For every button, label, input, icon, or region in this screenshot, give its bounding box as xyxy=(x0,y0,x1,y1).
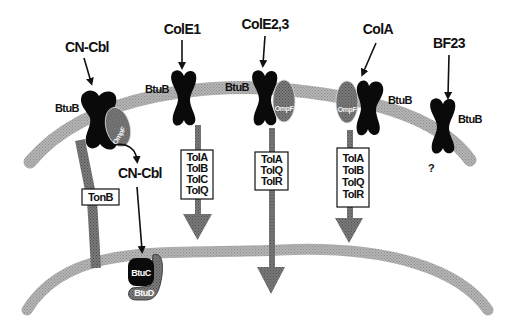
periplasm-ligand-label: CN-Cbl xyxy=(118,165,162,181)
btub-label: BtuB xyxy=(225,81,250,93)
ligand-label-cn-cbl: CN-Cbl xyxy=(65,39,109,55)
btub-label: BtuB xyxy=(458,113,483,125)
ompf-trimer xyxy=(336,81,358,123)
btub-label: BtuB xyxy=(55,102,80,114)
tol-box-cola: TolA TolB TolQ TolR xyxy=(337,148,369,207)
btuc-label: BtuC xyxy=(131,268,151,278)
curved-arrow-icon xyxy=(114,144,137,160)
ligand-label-cole23: ColE2,3 xyxy=(241,16,289,32)
btub-receptor-3: OmpF xyxy=(252,70,295,125)
unknown-pathway-mark: ? xyxy=(428,162,435,174)
tonb-label: TonB xyxy=(88,191,114,203)
tol-label: TolR xyxy=(342,188,364,200)
tol-box-cole1: TolA TolB TolC TolQ xyxy=(181,150,213,199)
tonb-box: TonB xyxy=(82,189,119,205)
arrow-icon xyxy=(363,43,376,73)
arrow-icon xyxy=(137,187,142,250)
btub-label: BtuB xyxy=(145,83,170,95)
btud-label: BtuD xyxy=(134,288,154,298)
ligand-label-bf23: BF23 xyxy=(433,35,466,51)
tol-label: TolA xyxy=(342,152,364,164)
arrow-icon xyxy=(263,36,265,64)
btucd-transporter: BtuC BtuD xyxy=(128,254,163,300)
tol-label: TolQ xyxy=(186,184,209,196)
ompf-label: OmpF xyxy=(338,106,358,114)
arrow-icon xyxy=(448,55,449,96)
ligand-label-cola: ColA xyxy=(363,21,394,37)
tol-label: TolB xyxy=(342,164,364,176)
btub-colicin-uptake-diagram: TonB TolA TolB TolC TolQ TolA TolQ TolR … xyxy=(0,0,507,330)
tol-label: TolQ xyxy=(342,176,365,188)
btub-label: BtuB xyxy=(388,94,413,106)
tol-label: TolR xyxy=(261,175,283,187)
ompf-trimer xyxy=(273,80,295,122)
arrow-icon xyxy=(84,58,91,82)
ligand-label-cole1: ColE1 xyxy=(164,21,201,37)
btub-receptor-4: OmpF xyxy=(336,80,383,135)
ompf-label: OmpF xyxy=(275,105,295,113)
tol-box-cole23: TolA TolQ TolR xyxy=(255,152,288,190)
